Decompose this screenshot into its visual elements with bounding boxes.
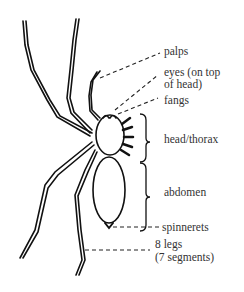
- palp: [91, 71, 100, 118]
- head-thorax-shape: [96, 115, 124, 155]
- leg-1: [26, 21, 92, 133]
- label-legs-line2: (7 segments): [155, 251, 214, 263]
- abdomen-shape: [93, 157, 125, 223]
- label-head-thorax: head/thorax: [164, 133, 218, 145]
- label-legs: 8 legs: [155, 238, 182, 250]
- brace-head-thorax: [140, 114, 150, 162]
- spider-diagram: [0, 0, 244, 292]
- label-eyes: eyes (on top: [164, 66, 220, 78]
- label-eyes-line2: of head): [164, 78, 202, 90]
- label-abdomen: abdomen: [164, 186, 206, 198]
- label-palps: palps: [164, 45, 188, 57]
- leg-3: [20, 142, 92, 258]
- label-fangs: fangs: [164, 94, 189, 106]
- label-spinnerets: spinnerets: [162, 221, 209, 233]
- brace-abdomen: [140, 163, 150, 231]
